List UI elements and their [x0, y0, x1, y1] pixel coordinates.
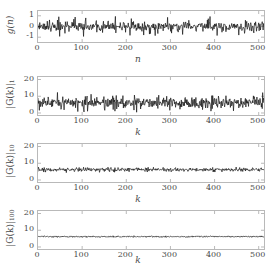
x-tick-label: 300	[154, 44, 184, 52]
panel-2-ylabel: |G(k)|1	[5, 64, 15, 124]
x-tick-label: 500	[243, 44, 273, 52]
y-tick-label: 1	[29, 11, 34, 19]
x-tick-label: 0	[22, 117, 52, 125]
signal-trace	[38, 92, 264, 112]
y-tick-label: 20	[24, 142, 34, 150]
panel-2-axes	[37, 76, 265, 116]
x-tick-label: 400	[199, 44, 229, 52]
panel-4-axes	[37, 210, 265, 250]
x-tick-label: 200	[110, 44, 140, 52]
y-tick-label: 10	[24, 225, 34, 233]
y-label-subscript: 1	[8, 79, 15, 83]
figure-canvas: g(n) -101 0100200300400500 n |G(k)|1 010…	[0, 0, 276, 271]
y-label-subscript: 100	[8, 210, 15, 221]
y-tick-label: 0	[29, 22, 34, 30]
y-tick-label: 0	[29, 175, 34, 183]
panel-1-ylabel: g(n)	[5, 0, 15, 55]
y-label-base: |G(k)|	[5, 221, 15, 247]
y-tick-label: 20	[24, 209, 34, 217]
y-tick-label: 10	[24, 158, 34, 166]
panel-3-ylabel: |G(k)|10	[5, 131, 15, 191]
x-tick-label: 100	[66, 184, 96, 192]
x-tick-label: 300	[154, 117, 184, 125]
y-label-subscript: 10	[8, 144, 15, 152]
panel-4-xlabel: k	[0, 255, 276, 265]
y-tick-label: 10	[24, 91, 34, 99]
y-tick-label: 0	[29, 108, 34, 116]
x-tick-label: 500	[243, 117, 273, 125]
x-tick-label: 200	[110, 184, 140, 192]
panel-3-xlabel: k	[0, 194, 276, 204]
panel-2-xlabel: k	[0, 127, 276, 137]
y-tick-label: 20	[24, 75, 34, 83]
panel-1-xlabel: n	[0, 54, 276, 64]
panel-4-ylabel: |G(k)|100	[5, 198, 15, 258]
y-label-base: |G(k)|	[5, 152, 15, 178]
signal-trace	[38, 167, 264, 173]
y-tick-label: -1	[26, 32, 34, 40]
x-tick-label: 100	[66, 44, 96, 52]
panel-3-axes	[37, 143, 265, 183]
panel-1-axes	[37, 10, 265, 43]
x-tick-label: 100	[66, 117, 96, 125]
x-tick-label: 500	[243, 184, 273, 192]
x-tick-label: 400	[199, 117, 229, 125]
x-tick-label: 0	[22, 44, 52, 52]
y-tick-label: 0	[29, 242, 34, 250]
x-tick-label: 400	[199, 184, 229, 192]
x-tick-label: 300	[154, 184, 184, 192]
x-tick-label: 0	[22, 184, 52, 192]
x-tick-label: 200	[110, 117, 140, 125]
signal-trace	[38, 16, 264, 36]
signal-trace	[38, 236, 264, 238]
y-label-base: |G(k)|	[5, 83, 15, 109]
